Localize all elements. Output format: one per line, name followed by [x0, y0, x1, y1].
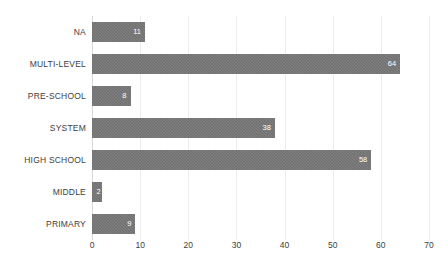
x-tick-label: 10: [135, 240, 144, 250]
bar-row: MIDDLE2: [92, 176, 429, 208]
x-tick-label: 40: [280, 240, 289, 250]
category-label: MIDDLE: [53, 187, 86, 197]
bar: 11: [92, 22, 145, 42]
bar-row: PRIMARY9: [92, 208, 429, 240]
bar: 64: [92, 54, 400, 74]
x-tick-label: 30: [232, 240, 241, 250]
x-tick-label: 50: [328, 240, 337, 250]
bar-value-label: 38: [263, 124, 271, 132]
bar: 58: [92, 150, 371, 170]
category-label: MULTI-LEVEL: [30, 59, 86, 69]
x-tick-label: 60: [376, 240, 385, 250]
category-label: HIGH SCHOOL: [24, 155, 86, 165]
bar-row: SYSTEM38: [92, 112, 429, 144]
category-label: PRIMARY: [46, 219, 86, 229]
x-tick-label: 20: [184, 240, 193, 250]
x-tick-label: 70: [424, 240, 433, 250]
category-label: PRE-SCHOOL: [28, 91, 86, 101]
plot-area: NA11MULTI-LEVEL64PRE-SCHOOL8SYSTEM38HIGH…: [92, 16, 429, 240]
bar: 8: [92, 86, 131, 106]
bar-value-label: 58: [359, 156, 367, 164]
x-tick-label: 0: [90, 240, 95, 250]
bar: 9: [92, 214, 135, 234]
category-label: NA: [74, 27, 86, 37]
bar-value-label: 64: [388, 60, 396, 68]
gridline-70: [429, 16, 430, 240]
bar: 38: [92, 118, 275, 138]
bar-value-label: 8: [122, 92, 126, 100]
bar-value-label: 2: [96, 188, 100, 196]
bar-rows: NA11MULTI-LEVEL64PRE-SCHOOL8SYSTEM38HIGH…: [92, 16, 429, 240]
bar-value-label: 11: [133, 28, 141, 36]
bar: 2: [92, 182, 102, 202]
category-label: SYSTEM: [50, 123, 86, 133]
bar-value-label: 9: [127, 220, 131, 228]
bar-row: PRE-SCHOOL8: [92, 80, 429, 112]
bar-row: HIGH SCHOOL58: [92, 144, 429, 176]
bar-row: MULTI-LEVEL64: [92, 48, 429, 80]
x-axis: 010203040506070: [92, 240, 429, 266]
bar-row: NA11: [92, 16, 429, 48]
bar-chart: NA11MULTI-LEVEL64PRE-SCHOOL8SYSTEM38HIGH…: [0, 0, 448, 270]
